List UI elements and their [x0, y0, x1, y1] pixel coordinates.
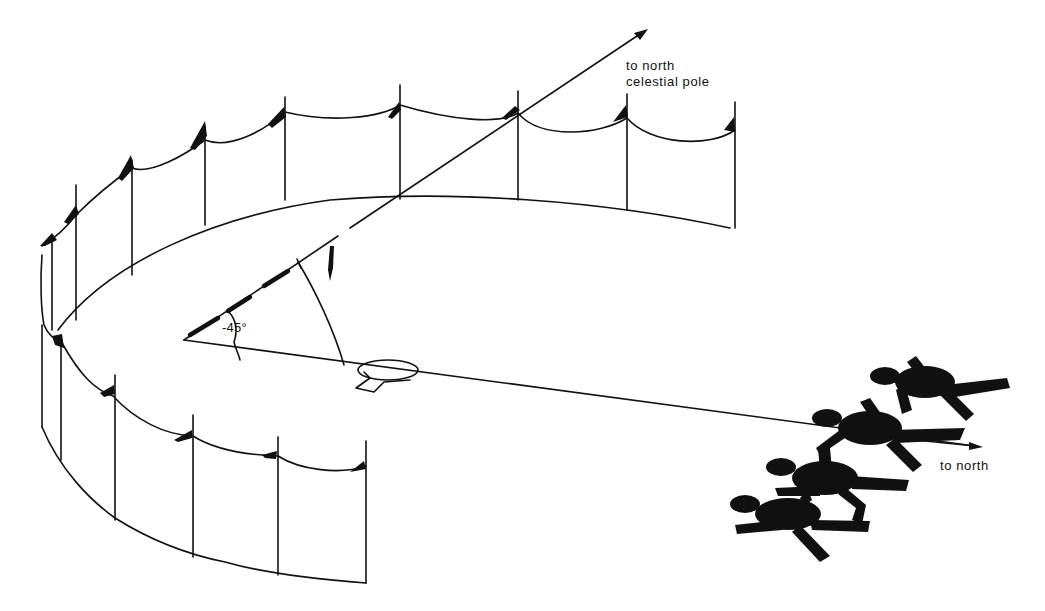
back-wall-floor-arc — [58, 196, 730, 330]
net-clips-back — [40, 102, 735, 246]
diagram-canvas: to north celestial pole to north -45° — [0, 0, 1045, 611]
celestial-pole-arrowhead — [634, 29, 648, 40]
front-wall-posts — [42, 325, 366, 583]
angle-arc-large — [298, 262, 344, 365]
axis-drop-mark — [328, 246, 334, 281]
platform-stand — [356, 372, 410, 392]
celestial-pole-axis-upper — [350, 34, 640, 228]
observer-figure-1 — [870, 356, 1010, 421]
back-wall-net-rope — [42, 105, 735, 246]
celestial-pole-label-line2: celestial pole — [626, 74, 710, 90]
enclosure-diagram — [0, 0, 1045, 611]
left-clip — [52, 334, 64, 348]
north-arrowhead — [969, 442, 983, 450]
front-wall-net-rope — [62, 343, 366, 471]
north-label: to north — [940, 458, 989, 474]
back-wall-posts — [52, 85, 735, 330]
front-wall-floor-arc — [42, 427, 366, 583]
angle-label: -45° — [222, 320, 247, 336]
celestial-pole-label-line1: to north — [626, 58, 675, 74]
net-clips-front — [100, 385, 366, 472]
